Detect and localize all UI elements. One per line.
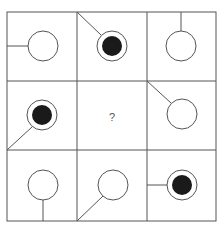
connector-line — [7, 127, 32, 150]
hollow-circle-icon — [98, 170, 128, 200]
cell-r0-c0 — [7, 31, 58, 61]
question-mark: ? — [109, 111, 115, 123]
hollow-circle-icon — [166, 31, 196, 61]
filled-dot-icon — [32, 105, 52, 125]
hollow-circle-icon — [167, 99, 197, 129]
connector-line — [147, 81, 171, 103]
connector-line — [77, 196, 103, 221]
cell-r0-c1 — [77, 12, 127, 61]
cell-r0-c2 — [166, 12, 196, 61]
cell-r2-c2 — [147, 170, 197, 200]
cell-r1-c0 — [7, 100, 57, 150]
puzzle-grid: ? — [0, 0, 222, 226]
hollow-circle-icon — [28, 31, 58, 61]
connector-line — [77, 12, 101, 35]
hollow-circle-icon — [28, 170, 58, 200]
cell-r2-c0 — [28, 170, 58, 221]
cell-r1-c2 — [147, 81, 197, 129]
filled-dot-icon — [172, 175, 192, 195]
filled-dot-icon — [102, 36, 122, 56]
cell-r2-c1 — [77, 170, 128, 221]
cell-r1-c1: ? — [109, 111, 115, 123]
